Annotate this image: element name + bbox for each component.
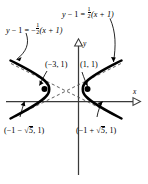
x-axis-label: x: [133, 88, 136, 95]
vertex-label-left: (−3, 1): [45, 61, 67, 69]
equation-left-operator: − 1 = −: [10, 26, 36, 35]
equation-right-operator: − 1 =: [66, 10, 88, 19]
vertex-marker-left: [42, 86, 48, 92]
equation-right-rhs: (x + 1): [91, 10, 114, 19]
intercept-label-left: (−1 − √5, 1): [4, 126, 44, 135]
axes-group: [6, 39, 141, 175]
intercept-left-suffix: , 1): [33, 126, 44, 135]
intercept-left-radical: √5: [24, 126, 33, 135]
hyperbola-figure: y − 1 = 12(x + 1) y − 1 = −12(x + 1) (−3…: [0, 0, 148, 184]
leader-eq-left: [17, 33, 28, 60]
intercept-label-right: (−1 + √5, 1): [76, 126, 116, 135]
leader-intercept-left-arrowhead: [21, 102, 26, 107]
equation-left-rhs: (x + 1): [40, 26, 63, 35]
x-axis-arrowhead: [133, 98, 141, 106]
equation-label-right: y − 1 = 12(x + 1): [62, 6, 114, 19]
intercept-left-prefix: (−1 −: [4, 126, 24, 135]
intercept-right-prefix: (−1 +: [76, 126, 96, 135]
leader-eq-right-arrowhead: [111, 57, 116, 62]
vertex-marker-right: [85, 86, 91, 92]
y-axis-arrowhead: [75, 39, 83, 46]
y-axis-label: y: [83, 40, 86, 47]
intercept-right-radical: √5: [96, 126, 105, 135]
equation-label-left: y − 1 = −12(x + 1): [6, 22, 62, 35]
intercept-right-suffix: , 1): [105, 126, 116, 135]
vertex-label-right: (1, 1): [80, 61, 98, 69]
leader-eq-right: [110, 19, 115, 63]
